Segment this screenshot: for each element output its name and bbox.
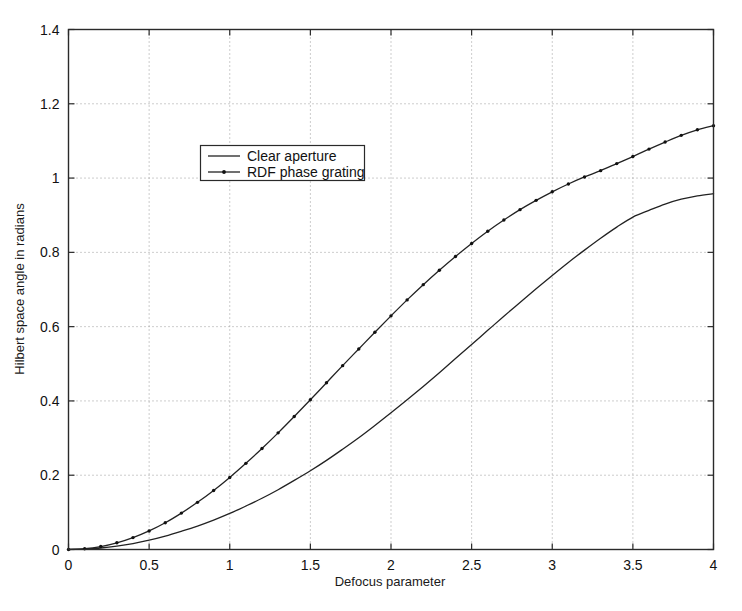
data-point-marker — [212, 489, 215, 492]
data-point-marker — [599, 169, 602, 172]
data-point-marker — [99, 545, 102, 548]
x-tick-label: 3.5 — [623, 557, 643, 573]
data-point-marker — [583, 175, 586, 178]
y-tick-label: 0.6 — [40, 319, 60, 335]
data-point-marker — [534, 199, 537, 202]
y-tick-label: 0.8 — [40, 244, 60, 260]
data-point-marker — [180, 511, 183, 514]
x-tick-label: 0 — [65, 557, 73, 573]
x-tick-label: 0.5 — [139, 557, 159, 573]
data-point-marker — [502, 218, 505, 221]
data-point-marker — [615, 162, 618, 165]
x-axis-title: Defocus parameter — [335, 574, 446, 589]
x-tick-label: 2.5 — [462, 557, 482, 573]
x-tick-label: 2 — [387, 557, 395, 573]
data-point-marker — [663, 140, 666, 143]
data-point-marker — [438, 268, 441, 271]
data-point-marker — [631, 155, 634, 158]
data-point-marker — [405, 298, 408, 301]
data-point-marker — [680, 134, 683, 137]
legend-marker-dot-icon — [222, 170, 226, 174]
data-point-marker — [373, 331, 376, 334]
data-point-marker — [422, 283, 425, 286]
x-tick-label: 1 — [226, 557, 234, 573]
chart-figure: 00.511.522.533.54 00.20.40.60.811.21.4 D… — [0, 0, 742, 611]
data-point-marker — [567, 182, 570, 185]
line-chart: 00.511.522.533.54 00.20.40.60.811.21.4 D… — [0, 0, 742, 611]
data-point-marker — [164, 521, 167, 524]
legend-label-clear-aperture: Clear aperture — [247, 148, 337, 164]
data-point-marker — [470, 242, 473, 245]
data-point-marker — [276, 431, 279, 434]
data-point-marker — [147, 529, 150, 532]
x-tick-label: 1.5 — [301, 557, 321, 573]
y-tick-label: 1.2 — [40, 96, 60, 112]
data-point-marker — [309, 398, 312, 401]
data-point-marker — [454, 255, 457, 258]
data-point-marker — [196, 501, 199, 504]
chart-legend[interactable]: Clear aperture RDF phase grating — [201, 146, 365, 181]
data-point-marker — [228, 476, 231, 479]
data-point-marker — [131, 536, 134, 539]
data-point-marker — [647, 147, 650, 150]
data-point-marker — [244, 462, 247, 465]
y-tick-label: 0.4 — [40, 393, 60, 409]
x-tick-label: 3 — [548, 557, 556, 573]
chart-background — [0, 0, 742, 611]
data-point-marker — [341, 364, 344, 367]
data-point-marker — [551, 190, 554, 193]
y-tick-label: 1 — [52, 170, 60, 186]
data-point-marker — [389, 314, 392, 317]
legend-label-rdf-phase-grating: RDF phase grating — [247, 164, 365, 180]
data-point-marker — [260, 447, 263, 450]
data-point-marker — [325, 381, 328, 384]
data-point-marker — [518, 208, 521, 211]
y-tick-label: 0.2 — [40, 467, 60, 483]
x-tick-label: 4 — [710, 557, 718, 573]
y-tick-label: 0 — [52, 542, 60, 558]
data-point-marker — [357, 347, 360, 350]
data-point-marker — [293, 415, 296, 418]
data-point-marker — [115, 541, 118, 544]
y-axis-title: Hilbert space angle in radians — [12, 203, 27, 375]
y-tick-label: 1.4 — [40, 22, 60, 38]
data-point-marker — [696, 128, 699, 131]
data-point-marker — [486, 229, 489, 232]
